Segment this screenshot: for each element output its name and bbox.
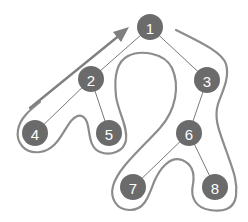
traversal-arrow-line bbox=[30, 34, 121, 108]
node-label: 8 bbox=[211, 180, 219, 197]
node-label: 6 bbox=[185, 126, 193, 143]
node-label: 4 bbox=[31, 126, 39, 143]
node-label: 2 bbox=[87, 72, 95, 89]
tree-traversal-diagram: 1 2 3 4 5 6 7 8 bbox=[0, 0, 248, 222]
node-label: 1 bbox=[146, 20, 154, 37]
tree-node-6: 6 bbox=[176, 120, 202, 146]
tree-node-2: 2 bbox=[78, 66, 104, 92]
tree-node-4: 4 bbox=[22, 120, 48, 146]
tree-node-1: 1 bbox=[137, 14, 163, 40]
node-label: 7 bbox=[129, 180, 137, 197]
node-label: 3 bbox=[203, 73, 211, 90]
tree-node-5: 5 bbox=[96, 120, 122, 146]
tree-node-8: 8 bbox=[202, 174, 228, 200]
tree-node-3: 3 bbox=[194, 67, 220, 93]
tree-node-7: 7 bbox=[120, 174, 146, 200]
node-label: 5 bbox=[105, 126, 113, 143]
